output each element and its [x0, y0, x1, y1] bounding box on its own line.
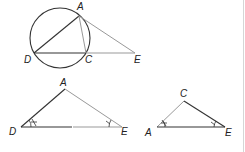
label-E: E [121, 126, 128, 137]
segment-DA [21, 89, 65, 127]
right-border-divider [243, 0, 244, 152]
label-A: A [59, 77, 67, 88]
label-A: A [144, 127, 152, 138]
segment-DA [34, 16, 79, 53]
figure-triangle-ACE: C A E [144, 88, 232, 138]
label-E: E [225, 127, 232, 138]
angle-arc-D [29, 120, 31, 127]
figure-circle: A D C E [24, 1, 141, 68]
label-C: C [85, 54, 93, 65]
segment-AE [79, 16, 135, 53]
label-A: A [76, 1, 84, 12]
label-E: E [134, 54, 141, 65]
segment-AE [65, 89, 122, 127]
figure-triangle-ADE: A D E [9, 77, 128, 137]
segment-CE [184, 101, 225, 127]
label-D: D [24, 54, 31, 65]
label-C: C [180, 88, 188, 99]
label-D: D [9, 126, 16, 137]
geometry-diagram: A D C E A D E [0, 0, 245, 152]
angle-mark-D [31, 119, 37, 126]
